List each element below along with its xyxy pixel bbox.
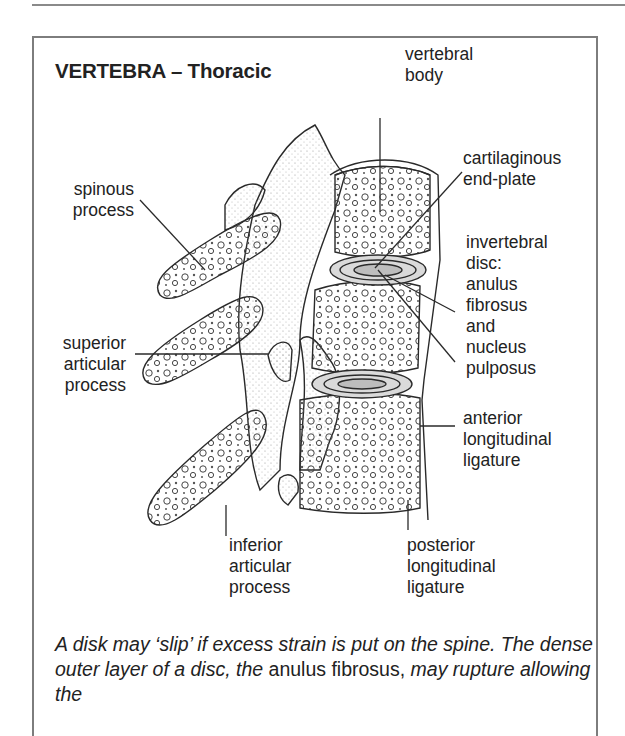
figure-caption: A disk may ‘slip’ if excess strain is pu…: [55, 632, 595, 707]
label-inferior-articular-process: inferior articular process: [229, 535, 291, 598]
label-anterior-longitudinal-ligature: anterior longitudinal ligature: [463, 408, 552, 471]
label-line: articular: [229, 556, 291, 577]
label-line: nucleus: [466, 337, 548, 358]
label-cartilaginous-end-plate: cartilaginous end-plate: [463, 148, 561, 190]
label-line: inferior: [229, 535, 291, 556]
label-line: spinous: [60, 179, 134, 200]
label-line: and: [466, 316, 548, 337]
label-line: process: [229, 577, 291, 598]
label-line: process: [40, 375, 126, 396]
label-line: superior: [40, 333, 126, 354]
label-spinous-process: spinous process: [60, 179, 134, 221]
label-line: fibrosus: [466, 295, 548, 316]
label-line: body: [405, 65, 473, 86]
label-line: longitudinal: [463, 429, 552, 450]
label-line: articular: [40, 354, 126, 375]
label-line: process: [60, 200, 134, 221]
label-posterior-longitudinal-ligature: posterior longitudinal ligature: [407, 535, 496, 598]
label-superior-articular-process: superior articular process: [40, 333, 126, 396]
label-line: vertebral: [405, 44, 473, 65]
label-line: posterior: [407, 535, 496, 556]
label-line: anterior: [463, 408, 552, 429]
label-line: anulus: [466, 274, 548, 295]
label-line: end-plate: [463, 169, 561, 190]
label-line: longitudinal: [407, 556, 496, 577]
label-line: cartilaginous: [463, 148, 561, 169]
label-line: ligature: [463, 450, 552, 471]
label-line: pulposus: [466, 358, 548, 379]
label-line: invertebral: [466, 232, 548, 253]
label-line: ligature: [407, 577, 496, 598]
label-vertebral-body: vertebral body: [405, 44, 473, 86]
label-line: disc:: [466, 253, 548, 274]
label-intervertebral-disc: invertebral disc: anulus fibrosus and nu…: [466, 232, 548, 379]
caption-roman-term: anulus fibrosus,: [269, 658, 406, 680]
